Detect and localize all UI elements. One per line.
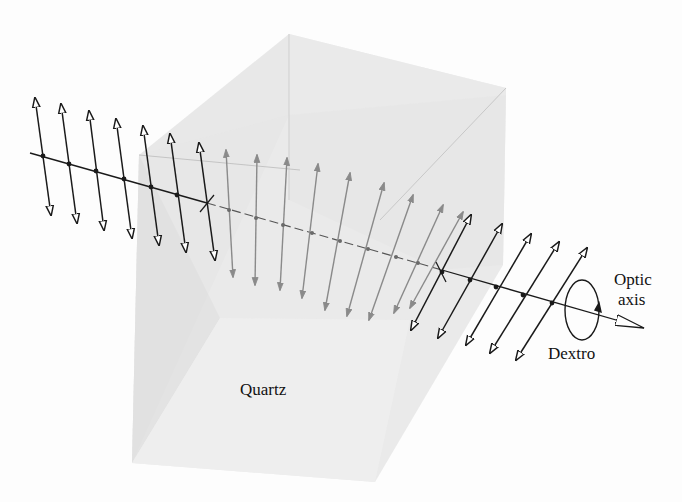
optic-axis-label: Optic axis — [614, 270, 652, 310]
optic-axis-label-line1: Optic — [614, 270, 652, 290]
optic-axis-label-line2: axis — [614, 290, 652, 310]
quartz-label: Quartz — [240, 380, 286, 399]
dextro-label: Dextro — [548, 344, 595, 363]
quartz-crystal — [132, 34, 506, 482]
quartz-optical-activity-diagram — [0, 0, 682, 502]
